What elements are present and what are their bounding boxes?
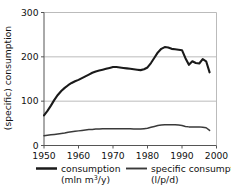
y-tick-label: 200 <box>21 51 39 62</box>
y-tick-label: 300 <box>21 7 39 18</box>
legend-label-specific-consumption: specific consumption <box>151 163 231 174</box>
legend-label-consumption: consumption <box>61 163 121 174</box>
x-tick-label: 2000 <box>205 150 229 161</box>
chart-container: 0100200300 195019601970198019902000 (spe… <box>0 0 231 194</box>
y-tick-label: 100 <box>21 95 39 106</box>
x-tick-label: 1970 <box>101 150 125 161</box>
y-axis-title: (specific) consumption <box>2 26 13 130</box>
x-tick-label: 1950 <box>32 150 56 161</box>
x-tick-label: 1990 <box>170 150 194 161</box>
x-tick-label: 1980 <box>136 150 160 161</box>
consumption-line-chart: 0100200300 195019601970198019902000 (spe… <box>0 0 231 194</box>
legend-unit-consumption: (mln m3/y) <box>61 174 110 185</box>
legend-unit-specific-consumption: (l/p/d) <box>151 174 179 185</box>
x-tick-label: 1960 <box>67 150 91 161</box>
